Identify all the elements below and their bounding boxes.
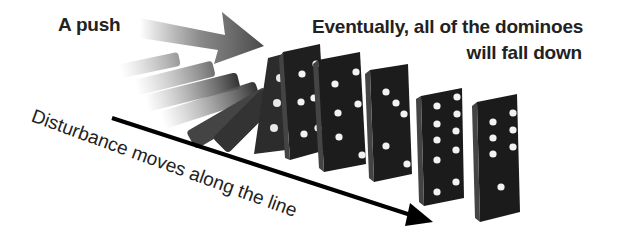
- result-label-line2: will fall down: [312, 40, 582, 66]
- domino-4: [416, 88, 464, 206]
- domino-5: [472, 94, 520, 222]
- domino-2: [313, 52, 366, 172]
- push-label: A push: [58, 14, 120, 36]
- result-label-line1: Eventually, all of the dominoes: [312, 14, 582, 40]
- result-label: Eventually, all of the dominoes will fal…: [312, 14, 582, 66]
- domino-3: [365, 64, 412, 182]
- fallen-dominoes: [119, 52, 277, 154]
